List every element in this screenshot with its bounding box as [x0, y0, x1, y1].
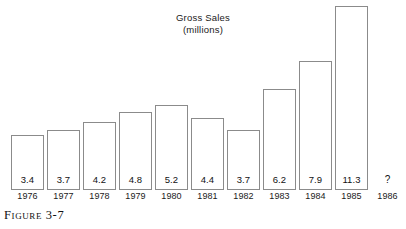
year-label: 1976 — [11, 191, 44, 201]
x-axis-year-labels: 1976197719781979198019811982198319841985… — [0, 191, 406, 205]
year-label: 1982 — [227, 191, 260, 201]
bar-group: 4.4 — [191, 0, 224, 190]
bar-group: 3.7 — [227, 0, 260, 190]
figure-caption: Figure 3-7 — [4, 208, 64, 223]
bar-value-label: 4.2 — [83, 170, 116, 190]
bar-value-label: 11.3 — [335, 170, 368, 190]
bar-group: 3.4 — [11, 0, 44, 190]
year-label: 1978 — [83, 191, 116, 201]
year-label: 1985 — [335, 191, 368, 201]
bar-chart-plot-area: 3.43.74.24.85.24.43.76.27.911.3? — [0, 0, 406, 190]
bar-value-label: 4.4 — [191, 170, 224, 190]
bar-group: 3.7 — [47, 0, 80, 190]
bar-value-label: 5.2 — [155, 170, 188, 190]
bar-value-label: 4.8 — [119, 170, 152, 190]
year-label: 1986 — [371, 191, 404, 201]
bar-group: 6.2 — [263, 0, 296, 190]
year-label: 1981 — [191, 191, 224, 201]
bar-value-label: 6.2 — [263, 170, 296, 190]
bar — [335, 6, 368, 190]
year-label: 1983 — [263, 191, 296, 201]
bar-value-label: 7.9 — [299, 170, 332, 190]
year-label: 1984 — [299, 191, 332, 201]
figure-3-7: Gross Sales (millions) 3.43.74.24.85.24.… — [0, 0, 406, 229]
bar-group: ? — [371, 0, 404, 190]
year-label: 1980 — [155, 191, 188, 201]
bar-value-label: 3.7 — [227, 170, 260, 190]
bar-group: 11.3 — [335, 0, 368, 190]
bar-value-label: 3.4 — [11, 170, 44, 190]
year-label: 1977 — [47, 191, 80, 201]
bar-value-label: 3.7 — [47, 170, 80, 190]
bar-group: 4.8 — [119, 0, 152, 190]
year-label: 1979 — [119, 191, 152, 201]
bar-group: 7.9 — [299, 0, 332, 190]
bar-group: 4.2 — [83, 0, 116, 190]
bar-value-label: ? — [371, 170, 404, 190]
bar-group: 5.2 — [155, 0, 188, 190]
